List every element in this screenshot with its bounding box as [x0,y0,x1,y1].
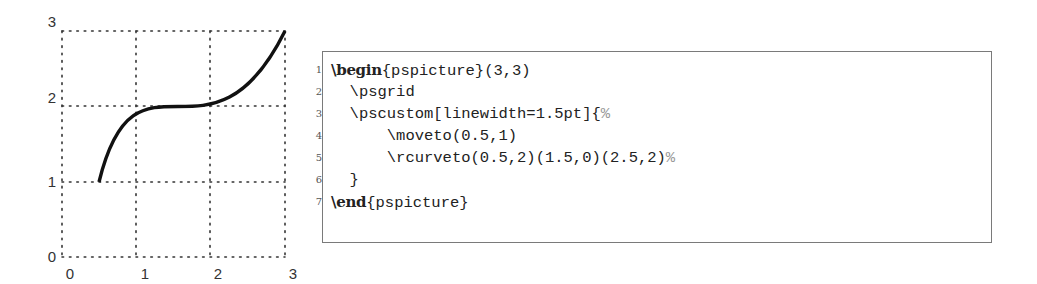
line-number: 5 [314,152,322,163]
line-number: 3 [314,108,322,119]
grid-lines [62,31,285,257]
x-tick-2: 2 [214,265,222,282]
code-line-7: 7 \end{pspicture} [323,191,343,213]
code-text: \psgrid [331,83,415,101]
bezier-curve [99,31,285,182]
code-line-6: 6 } [323,169,343,191]
code-line-2: 2 \psgrid [323,81,343,103]
code-text: \pscustom[linewidth=1.5pt]{ [331,105,601,123]
code-line-5: 5 \rcurveto(0.5,2)(1.5,0)(2.5,2)% [323,147,343,169]
keyword-end: end [336,193,366,211]
x-tick-0: 0 [66,265,74,282]
y-tick-0: 0 [48,248,56,265]
code-text: \rcurveto(0.5,2)(1.5,0)(2.5,2) [331,149,666,167]
line-number: 6 [314,174,322,185]
grid-plot: 0 1 2 3 0 1 2 3 [0,0,310,284]
code-text: {pspicture}(3,3) [382,62,531,80]
x-tick-3: 3 [289,265,297,282]
y-tick-2: 2 [48,89,56,106]
comment-marker: % [601,105,610,123]
code-line-3: 3 \pscustom[linewidth=1.5pt]{% [323,103,343,125]
code-line-1: 1 \begin{pspicture}(3,3) [323,59,343,81]
code-text: } [331,171,359,189]
comment-marker: % [666,149,675,167]
code-line-4: 4 \moveto(0.5,1) [323,125,343,147]
pspicture-figure: 0 1 2 3 0 1 2 3 [0,0,310,284]
line-number: 4 [314,130,322,141]
keyword-begin: begin [336,61,382,79]
code-listing: 1 \begin{pspicture}(3,3) 2 \psgrid 3 \ps… [322,51,992,243]
x-tick-1: 1 [141,265,149,282]
x-axis-ticks: 0 1 2 3 [66,265,297,282]
y-axis-ticks: 0 1 2 3 [48,13,56,265]
code-text: {pspicture} [366,194,468,212]
line-number: 1 [314,64,322,75]
y-tick-3: 3 [48,13,56,30]
line-number: 7 [314,196,322,207]
code-text: \moveto(0.5,1) [331,127,517,145]
y-tick-1: 1 [48,173,56,190]
line-number: 2 [314,86,322,97]
